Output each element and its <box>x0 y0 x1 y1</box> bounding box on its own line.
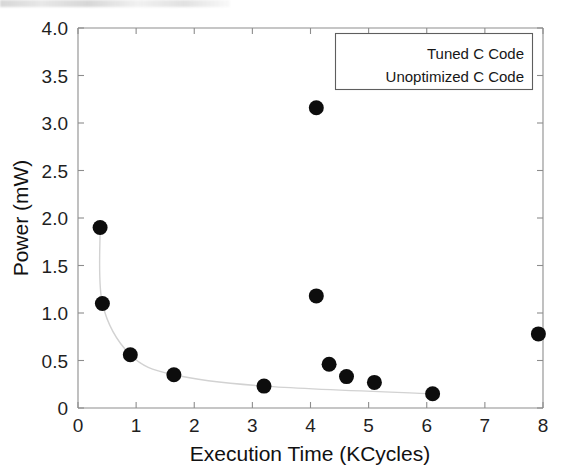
y-axis-tick-labels: 00.51.01.52.02.53.03.54.0 <box>42 18 68 419</box>
data-point-unoptimized <box>367 375 382 390</box>
x-axis-tick-labels: 012345678 <box>73 415 549 436</box>
data-point-unoptimized <box>309 100 324 115</box>
y-tick-label: 3.5 <box>42 66 68 87</box>
y-tick-label: 2.0 <box>42 208 68 229</box>
scatter-plot: 012345678 00.51.01.52.02.53.03.54.0 Exec… <box>0 0 564 471</box>
y-tick-label: 0 <box>57 398 68 419</box>
data-point-tuned <box>93 220 108 235</box>
data-point-tuned <box>425 386 440 401</box>
data-point-tuned <box>95 296 110 311</box>
x-tick-label: 5 <box>363 415 374 436</box>
x-tick-label: 7 <box>480 415 491 436</box>
legend-entry-unoptimized-c-code: Unoptimized C Code <box>386 68 524 85</box>
x-tick-label: 8 <box>538 415 549 436</box>
data-point-unoptimized <box>339 369 354 384</box>
y-tick-label: 1.0 <box>42 303 68 324</box>
unoptimized-c-code-points <box>309 100 546 390</box>
y-tick-label: 1.5 <box>42 256 68 277</box>
y-tick-label: 3.0 <box>42 113 68 134</box>
y-tick-label: 0.5 <box>42 351 68 372</box>
legend: Tuned C Code Unoptimized C Code <box>336 34 533 90</box>
x-tick-label: 3 <box>247 415 258 436</box>
x-tick-label: 6 <box>421 415 432 436</box>
tuned-c-code-points <box>93 220 441 401</box>
data-point-unoptimized <box>309 288 324 303</box>
data-point-tuned <box>166 367 181 382</box>
data-point-unoptimized <box>322 357 337 372</box>
x-axis-title: Execution Time (KCycles) <box>190 442 430 465</box>
x-tick-label: 4 <box>305 415 316 436</box>
y-axis-title: Power (mW) <box>9 160 32 277</box>
x-tick-label: 0 <box>73 415 84 436</box>
tuned-c-code-curve <box>100 228 433 394</box>
data-point-tuned <box>257 379 272 394</box>
legend-entry-tuned-c-code: Tuned C Code <box>427 45 524 62</box>
data-point-tuned <box>123 347 138 362</box>
y-tick-label: 2.5 <box>42 161 68 182</box>
data-point-unoptimized <box>531 326 546 341</box>
x-tick-label: 2 <box>189 415 200 436</box>
x-tick-label: 1 <box>131 415 142 436</box>
figure-canvas: 012345678 00.51.01.52.02.53.03.54.0 Exec… <box>0 0 564 471</box>
y-tick-label: 4.0 <box>42 18 68 39</box>
